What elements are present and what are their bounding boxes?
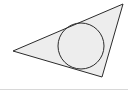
triangle-shape bbox=[13, 4, 123, 77]
bottom-rule bbox=[0, 89, 128, 90]
figure-frame bbox=[0, 0, 128, 90]
geometry-figure bbox=[0, 0, 128, 90]
